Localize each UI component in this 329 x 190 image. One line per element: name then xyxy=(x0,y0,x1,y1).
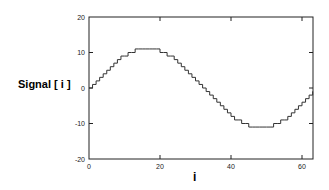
x-tick-label: 60 xyxy=(298,163,306,170)
x-tick-label: 20 xyxy=(156,163,164,170)
x-tick-label: 40 xyxy=(227,163,235,170)
x-tick-label: 0 xyxy=(87,163,91,170)
signal-step-plot: 020406020100-10-20 xyxy=(0,0,329,190)
y-tick-label: 0 xyxy=(81,85,85,92)
y-tick-label: 20 xyxy=(77,14,85,21)
y-tick-label: -20 xyxy=(75,156,85,163)
y-tick-label: 10 xyxy=(77,49,85,56)
y-tick-label: -10 xyxy=(75,120,85,127)
plot-frame xyxy=(89,17,313,159)
axis-ticks xyxy=(89,17,313,159)
axis-tick-labels: 020406020100-10-20 xyxy=(75,14,306,171)
x-axis-label: i xyxy=(193,170,196,184)
signal-line xyxy=(89,49,313,127)
y-axis-label: Signal [ i ] xyxy=(18,78,71,90)
